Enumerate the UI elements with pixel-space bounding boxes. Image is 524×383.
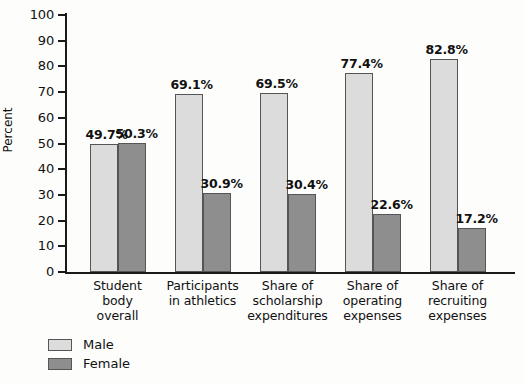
bar-male bbox=[430, 59, 458, 272]
x-axis-line bbox=[65, 272, 515, 274]
bar-female bbox=[458, 228, 486, 272]
bar-value-label: 30.9% bbox=[201, 176, 243, 191]
category-label-line: overall bbox=[63, 308, 173, 323]
bar-value-label: 77.4% bbox=[341, 56, 383, 71]
y-axis-title: Percent bbox=[1, 100, 15, 160]
legend-label: Male bbox=[83, 337, 114, 352]
bar-value-label: 69.1% bbox=[171, 77, 213, 92]
category-label: Share ofrecruitingexpenses bbox=[403, 278, 513, 323]
legend-label: Female bbox=[83, 356, 130, 371]
legend-item-male[interactable]: Male bbox=[48, 335, 130, 354]
y-axis-tick-label: 100 bbox=[26, 7, 54, 22]
bar-female bbox=[288, 194, 316, 272]
bar-male bbox=[345, 73, 373, 272]
bar-value-label: 69.5% bbox=[256, 76, 298, 91]
bar-value-label: 50.3% bbox=[116, 126, 158, 141]
y-axis-tick-label: 50 bbox=[26, 136, 54, 151]
y-axis-tick-label: 40 bbox=[26, 161, 54, 176]
category-label-line: Share of bbox=[403, 278, 513, 293]
legend-swatch-icon bbox=[48, 358, 72, 370]
legend: MaleFemale bbox=[48, 335, 130, 373]
bar-female bbox=[118, 143, 146, 272]
bar-male bbox=[175, 94, 203, 272]
legend-item-female[interactable]: Female bbox=[48, 354, 130, 373]
y-axis-tick-label: 90 bbox=[26, 33, 54, 48]
category-label-line: expenses bbox=[403, 308, 513, 323]
y-axis-tick-label: 10 bbox=[26, 238, 54, 253]
bar-male bbox=[90, 144, 118, 272]
category-label-line: recruiting bbox=[403, 293, 513, 308]
y-axis-tick-label: 20 bbox=[26, 213, 54, 228]
y-axis-tick-label: 60 bbox=[26, 110, 54, 125]
plot-area: 49.7%50.3%69.1%30.9%69.5%30.4%77.4%22.6%… bbox=[65, 15, 515, 272]
bar-value-label: 22.6% bbox=[371, 197, 413, 212]
bar-female bbox=[373, 214, 401, 272]
bar-value-label: 82.8% bbox=[426, 42, 468, 57]
bar-male bbox=[260, 93, 288, 272]
y-axis-tick-label: 70 bbox=[26, 84, 54, 99]
y-axis-tick-label: 30 bbox=[26, 187, 54, 202]
bar-value-label: 17.2% bbox=[456, 211, 498, 226]
legend-swatch-icon bbox=[48, 339, 72, 351]
y-axis-tick-label: 0 bbox=[26, 264, 54, 279]
bar-female bbox=[203, 193, 231, 272]
y-axis-tick-label: 80 bbox=[26, 58, 54, 73]
bar-chart: Percent 1009080706050403020100 49.7%50.3… bbox=[0, 0, 524, 383]
bar-value-label: 30.4% bbox=[286, 177, 328, 192]
